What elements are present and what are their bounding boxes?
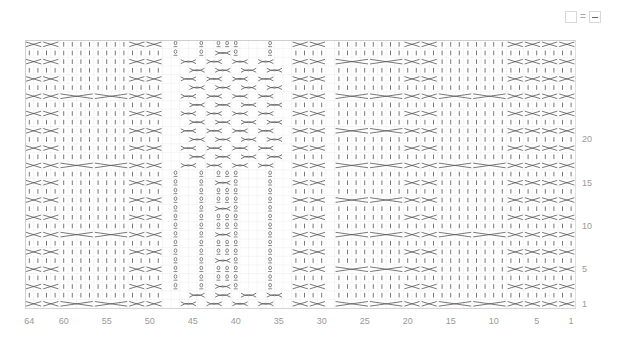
column-label: 20 (403, 316, 413, 326)
column-label: 50 (145, 316, 155, 326)
row-label: 15 (582, 178, 592, 188)
empty-square-icon (565, 11, 577, 23)
purl-dash-icon (589, 11, 601, 23)
column-label: 25 (360, 316, 370, 326)
column-label: 55 (102, 316, 112, 326)
column-label: 10 (489, 316, 499, 326)
row-label: 20 (582, 134, 592, 144)
column-label: 5 (534, 316, 539, 326)
column-label: 40 (231, 316, 241, 326)
column-label: 15 (446, 316, 456, 326)
chart-legend: = (565, 10, 601, 24)
chart-grid (25, 40, 576, 309)
column-label: 45 (188, 316, 198, 326)
row-label: 5 (582, 264, 587, 274)
legend-equals: = (580, 11, 586, 23)
column-label: 60 (59, 316, 69, 326)
column-label: 64 (24, 316, 34, 326)
column-label: 1 (569, 316, 574, 326)
row-label: 1 (582, 299, 587, 309)
row-label: 10 (582, 221, 592, 231)
knitting-chart (25, 40, 576, 309)
column-label: 35 (274, 316, 284, 326)
column-label: 30 (317, 316, 327, 326)
